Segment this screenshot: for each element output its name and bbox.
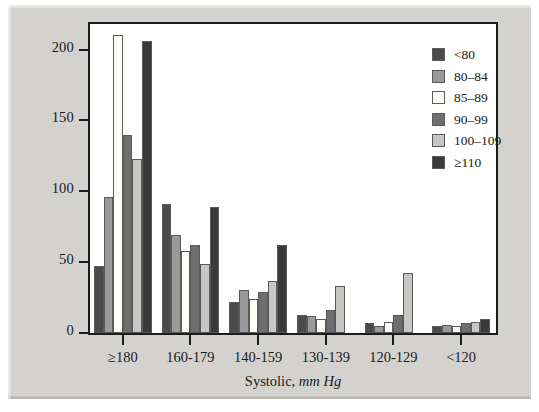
y-tick-label: 50 bbox=[14, 251, 74, 268]
bar bbox=[316, 319, 326, 333]
bar bbox=[142, 41, 152, 333]
bar bbox=[277, 245, 287, 333]
y-tick-label: 150 bbox=[14, 109, 74, 126]
x-tick-mark bbox=[189, 335, 191, 345]
y-tick-label: 100 bbox=[14, 180, 74, 197]
legend-label: 80–84 bbox=[454, 67, 488, 86]
bar bbox=[181, 251, 191, 333]
bar bbox=[335, 286, 345, 333]
bar bbox=[268, 281, 278, 333]
legend-item[interactable]: ≥110 bbox=[432, 153, 528, 175]
legend-label: 90–99 bbox=[454, 110, 488, 129]
legend-label: <80 bbox=[454, 45, 475, 64]
legend-label: 85–89 bbox=[454, 88, 488, 107]
bar bbox=[326, 310, 336, 333]
bar bbox=[104, 197, 114, 333]
bar bbox=[452, 326, 462, 333]
y-tick-label: 200 bbox=[14, 39, 74, 56]
bar bbox=[432, 326, 442, 333]
bar bbox=[403, 273, 413, 333]
legend: <8080–8485–8990–99100–109≥110 bbox=[432, 45, 528, 174]
bar bbox=[442, 325, 452, 334]
y-tick-label: 0 bbox=[14, 322, 74, 339]
legend-label: 100–109 bbox=[454, 131, 501, 150]
y-tick-mark bbox=[79, 49, 90, 51]
legend-item[interactable]: 85–89 bbox=[432, 88, 528, 110]
x-tick-label: <120 bbox=[401, 349, 521, 366]
bar bbox=[171, 235, 181, 333]
bar bbox=[239, 290, 249, 333]
legend-label: ≥110 bbox=[454, 153, 481, 172]
x-tick-mark bbox=[325, 335, 327, 345]
bar bbox=[480, 319, 490, 333]
bar bbox=[162, 204, 172, 333]
legend-swatch-icon bbox=[432, 70, 445, 83]
y-tick-mark bbox=[79, 261, 90, 263]
x-tick-mark bbox=[122, 335, 124, 345]
x-tick-mark bbox=[460, 335, 462, 345]
bar bbox=[229, 302, 239, 333]
bar bbox=[249, 299, 259, 333]
x-axis-label: Systolic, mm Hg bbox=[88, 373, 498, 390]
bar bbox=[307, 316, 317, 333]
bar bbox=[94, 266, 104, 333]
bar bbox=[123, 135, 133, 333]
legend-swatch-icon bbox=[432, 91, 445, 104]
bar bbox=[258, 292, 268, 333]
bar bbox=[384, 322, 394, 333]
bar bbox=[393, 315, 403, 333]
bar bbox=[461, 323, 471, 333]
bar bbox=[297, 315, 307, 333]
y-tick-mark bbox=[79, 190, 90, 192]
x-tick-mark bbox=[392, 335, 394, 345]
legend-item[interactable]: <80 bbox=[432, 45, 528, 67]
bar bbox=[471, 322, 481, 333]
bar bbox=[200, 264, 210, 333]
bar bbox=[210, 207, 220, 333]
bar bbox=[190, 245, 200, 333]
x-tick-mark bbox=[257, 335, 259, 345]
legend-item[interactable]: 100–109 bbox=[432, 131, 528, 153]
legend-swatch-icon bbox=[432, 134, 445, 147]
legend-item[interactable]: 90–99 bbox=[432, 110, 528, 132]
bar bbox=[374, 326, 384, 333]
y-tick-mark bbox=[79, 119, 90, 121]
x-axis-label-plain: Systolic, bbox=[245, 373, 299, 389]
bar bbox=[365, 323, 375, 333]
bar bbox=[132, 159, 142, 333]
bar bbox=[113, 35, 123, 333]
legend-item[interactable]: 80–84 bbox=[432, 67, 528, 89]
legend-swatch-icon bbox=[432, 113, 445, 126]
figure-panel: 050100150200 Diastolic, mm Hg ≥180160-17… bbox=[8, 5, 531, 399]
x-axis-label-units: mm Hg bbox=[299, 373, 341, 389]
y-tick-mark bbox=[79, 332, 90, 334]
legend-swatch-icon bbox=[432, 156, 445, 169]
legend-swatch-icon bbox=[432, 48, 445, 61]
